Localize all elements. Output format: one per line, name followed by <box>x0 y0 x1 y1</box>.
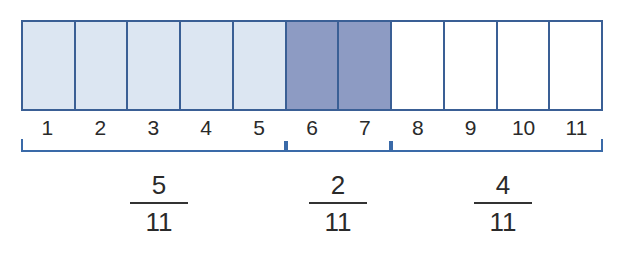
cell-label: 11 <box>550 114 603 142</box>
cell-7 <box>339 22 392 109</box>
cell-1 <box>23 22 76 109</box>
bracket-end-right <box>601 139 603 152</box>
cell-label: 3 <box>127 114 180 142</box>
cell-label: 1 <box>21 114 74 142</box>
cell-label: 10 <box>497 114 550 142</box>
fraction-denominator: 11 <box>119 206 199 238</box>
cell-4 <box>181 22 234 109</box>
cell-3 <box>128 22 181 109</box>
fraction-denominator: 11 <box>298 206 378 238</box>
fraction-dark-group: 2 11 <box>298 170 378 238</box>
fraction-numerator: 2 <box>298 170 378 200</box>
fraction-numerator: 5 <box>119 170 199 200</box>
cell-10 <box>498 22 551 109</box>
cell-label: 7 <box>338 114 391 142</box>
group-bracket-line <box>21 150 603 152</box>
fraction-bar-line <box>130 202 188 204</box>
cell-8 <box>392 22 445 109</box>
fraction-bar-line <box>474 202 532 204</box>
cell-11 <box>550 22 601 109</box>
cell-label: 2 <box>74 114 127 142</box>
fraction-denominator: 11 <box>463 206 543 238</box>
fraction-bar-line <box>309 202 367 204</box>
cell-label: 5 <box>233 114 286 142</box>
cell-label: 4 <box>180 114 233 142</box>
cell-5 <box>234 22 287 109</box>
fraction-bar <box>21 20 603 111</box>
cell-label: 6 <box>286 114 339 142</box>
cell-6 <box>287 22 340 109</box>
bracket-end-left <box>21 139 23 152</box>
cell-9 <box>445 22 498 109</box>
cell-label: 8 <box>391 114 444 142</box>
bracket-divider-7-8 <box>389 141 393 152</box>
fraction-empty-group: 4 11 <box>463 170 543 238</box>
cropped-text-remnant <box>0 0 619 6</box>
bracket-divider-5-6 <box>284 141 288 152</box>
cell-label: 9 <box>444 114 497 142</box>
cell-2 <box>76 22 129 109</box>
fraction-light-group: 5 11 <box>119 170 199 238</box>
fraction-numerator: 4 <box>463 170 543 200</box>
cell-number-labels: 1 2 3 4 5 6 7 8 9 10 11 <box>21 114 603 142</box>
